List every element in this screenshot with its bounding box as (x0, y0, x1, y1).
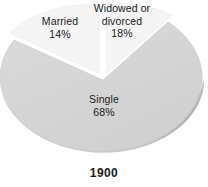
pie-chart-figure: Married 14% Widowed or divorced 18% Sing… (0, 0, 208, 187)
chart-caption: 1900 (0, 166, 208, 180)
pie-chart-graphic (0, 0, 208, 187)
